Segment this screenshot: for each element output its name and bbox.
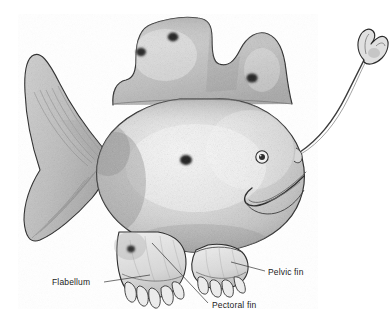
anglerfish-drawing [18,12,388,309]
label-text-pectoral-fin: Pectoral fin [212,300,256,310]
label-text-flabellum: Flabellum [52,277,90,287]
anglerfish-figure: Flabellum Pectoral fin Pelvic fin [0,0,392,326]
illustration-canvas: Flabellum Pectoral fin Pelvic fin [0,0,392,326]
paper-grain [18,14,318,309]
label-text-pelvic-fin: Pelvic fin [268,267,304,277]
esca-lure [358,29,388,64]
